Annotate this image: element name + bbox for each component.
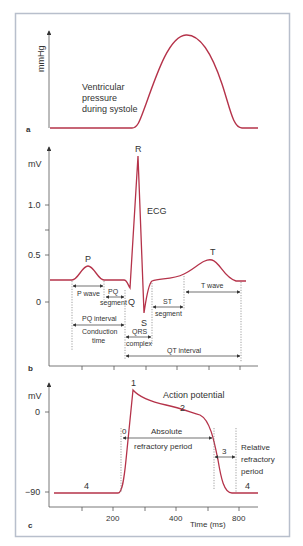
pq-interval-label: PQ interval [82,315,117,323]
relative-label-3: period [241,467,263,476]
st-label-1: ST [163,298,173,305]
panel-c-y-label: mV [28,391,42,401]
panel-c-letter: c [28,521,33,530]
phase-4-label-right: 4 [245,481,250,491]
panel-a-caption-1: Ventricular [82,82,125,92]
t-wave-label: T wave [201,282,224,289]
ecg-label: ECG [147,206,167,216]
panel-c-ytick-0: 0 [35,407,40,417]
phase-0-label: 0 [122,427,127,436]
panel-a-y-label: mmHg [36,46,46,73]
panel-b-ytick-05: 0.5 [28,250,41,260]
panel-a-caption-2: pressure [82,93,117,103]
panel-a-letter: a [26,125,31,134]
conduction-label-1: Conduction [82,328,118,335]
relative-label-2: refractory [241,455,275,464]
panel-a-caption-3: during systole [82,104,138,114]
panel-c: mV 0 −90 1 Action potential 2 0 Absolute… [25,378,275,530]
xtick-400: 400 [169,514,183,523]
qrs-label-1: QRS [132,328,148,336]
wave-s-label: S [141,318,147,328]
panel-b-letter: b [28,364,33,373]
panel-b-ytick-1: 1.0 [28,200,41,210]
absolute-label-1: Absolute [151,427,183,436]
action-potential-label: Action potential [163,390,225,400]
panel-b-x-ticks [82,366,240,370]
pq-segment-label-2: segment [100,299,127,307]
relative-label-1: Relative [241,443,270,452]
pq-segment-label-1: PQ [108,288,119,296]
phase-2-label: 2 [180,403,185,413]
qrs-label-2: complex [126,340,153,348]
panel-b-ytick-0: 0 [36,297,41,307]
wave-r-label: R [135,144,142,154]
panel-b: mV 1.0 0.5 0 R ECG P Q S T [28,144,258,373]
phase-1-label: 1 [131,378,136,388]
cardiac-figure: mmHg Ventricular pressure during systole… [0,0,303,546]
wave-p-label: P [85,254,91,264]
x-axis-label: Time (ms) [190,520,226,529]
wave-t-label: T [210,247,216,257]
panel-b-y-label: mV [28,159,42,169]
panel-a: mmHg Ventricular pressure during systole… [26,31,258,134]
conduction-label-2: time [92,337,105,344]
st-label-2: segment [155,310,182,318]
phase-3-label: 3 [222,447,227,456]
absolute-label-2: refractory period [134,442,192,451]
xtick-800: 800 [232,514,246,523]
panel-c-ytick-90: −90 [25,487,40,497]
panel-c-x-ticks [82,507,239,511]
wave-q-label: Q [128,297,135,307]
qt-interval-label: QT interval [167,347,202,355]
phase-4-label-left: 4 [84,481,89,491]
p-wave-label: P wave [77,290,100,297]
xtick-200: 200 [106,514,120,523]
